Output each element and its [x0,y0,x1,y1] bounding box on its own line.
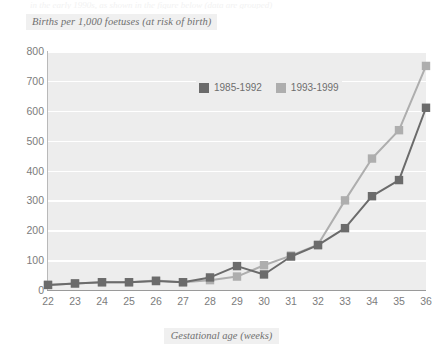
data-point-1993-1999-35[interactable] [395,126,403,134]
data-point-1985-1992-34[interactable] [368,192,376,200]
data-point-1985-1992-24[interactable] [98,278,106,286]
data-point-1993-1999-34[interactable] [368,154,376,162]
chart-series-layer [0,0,443,356]
chart-figure: in the early 1990s, as shown in the figu… [0,0,443,356]
data-point-1993-1999-30[interactable] [260,261,268,269]
data-point-1985-1992-28[interactable] [206,273,214,281]
data-point-1985-1992-33[interactable] [341,224,349,232]
data-point-1993-1999-29[interactable] [233,272,241,280]
data-point-1985-1992-26[interactable] [152,277,160,285]
series-line-1993-1999 [48,66,426,285]
data-point-1985-1992-23[interactable] [71,279,79,287]
data-point-1985-1992-30[interactable] [260,270,268,278]
data-point-1985-1992-35[interactable] [395,176,403,184]
data-point-1985-1992-31[interactable] [287,252,295,260]
data-point-1985-1992-22[interactable] [44,281,52,289]
x-axis-title: Gestational age (weeks) [164,328,279,344]
x-axis-title-wrap: Gestational age (weeks) [0,325,443,343]
data-point-1985-1992-29[interactable] [233,262,241,270]
data-point-1985-1992-32[interactable] [314,241,322,249]
data-point-1985-1992-27[interactable] [179,278,187,286]
data-point-1985-1992-36[interactable] [422,104,430,112]
data-point-1985-1992-25[interactable] [125,278,133,286]
data-point-1993-1999-36[interactable] [422,62,430,70]
data-point-1993-1999-33[interactable] [341,196,349,204]
